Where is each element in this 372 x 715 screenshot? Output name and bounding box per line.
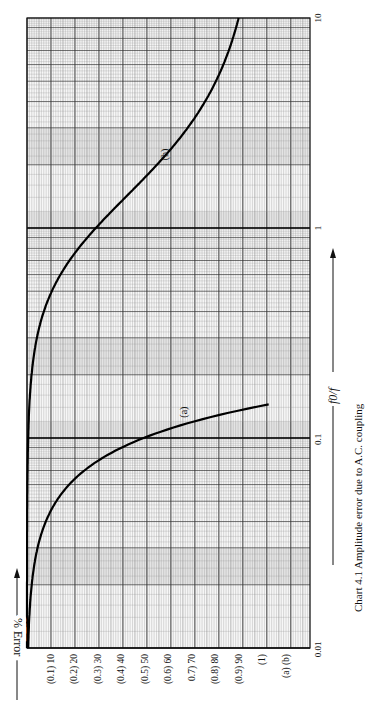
arrow-icon [14, 568, 20, 578]
y-axis-label: % Error [11, 618, 25, 656]
y-tick-label: (0.4) 40 [116, 654, 127, 684]
x-tick-labels: 0.010.1110 [313, 13, 323, 657]
x-tick-label: 1 [313, 226, 323, 231]
y-tick-label: (0.2) 20 [69, 654, 80, 684]
curve-a-label: (a) [178, 407, 190, 418]
x-tick-label: 0.1 [313, 434, 323, 445]
arrow-icon [330, 248, 336, 258]
x-axis-label: f0/f [326, 386, 340, 404]
y-tick-label: (a) (b) [281, 654, 292, 678]
y-tick-label: 0.7) 70 [187, 654, 198, 681]
y-axis-arrow: % Error % Error [11, 568, 25, 700]
grid [27, 18, 310, 648]
y-tick-label: (0.8) 80 [210, 654, 221, 684]
y-tick-label: (1) [257, 654, 268, 665]
y-tick-labels: (0.1) 10(0.2) 20(0.3) 30(0.4) 40(0.5) 50… [46, 654, 292, 684]
chart-caption: Chart 4.1 Amplitude error due to A.C. co… [352, 403, 364, 612]
y-tick-label: (0.9) 90 [234, 654, 245, 684]
y-tick-label: (0.6) 60 [163, 654, 174, 684]
curve-b-label: (b) [159, 149, 171, 161]
x-tick-label: 10 [313, 13, 323, 23]
y-tick-label: (0.1) 10 [46, 654, 57, 684]
y-tick-label: (0.5) 50 [140, 654, 151, 684]
x-tick-label: 0.01 [313, 641, 323, 657]
chart: (a) (b) 0.010.1110 (0.1) 10(0.2) 20(0.3)… [0, 0, 372, 715]
x-axis-arrow: f0/f [326, 248, 340, 565]
y-tick-label: (0.3) 30 [93, 654, 104, 684]
